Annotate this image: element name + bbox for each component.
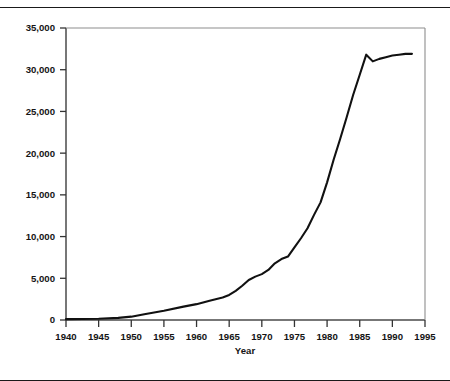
x-axis-tick-label: 1940	[55, 331, 76, 342]
y-axis-tick-label: 25,000	[26, 106, 55, 117]
x-axis-title: Year	[235, 345, 256, 356]
y-axis-tick-label: 30,000	[26, 64, 55, 75]
x-axis-tick-label: 1965	[219, 331, 241, 342]
x-axis-tick-label: 1970	[251, 331, 272, 342]
y-axis-tick-label: 10,000	[26, 231, 55, 242]
y-axis-tick-label: 20,000	[26, 148, 55, 159]
x-axis-tick-label: 1955	[153, 331, 175, 342]
x-axis-tick-label: 1980	[316, 331, 337, 342]
data-series-line	[66, 54, 412, 319]
x-axis-tick-label: 1950	[121, 331, 142, 342]
y-axis-tick-label: 15,000	[26, 189, 55, 200]
line-chart: 05,00010,00015,00020,00025,00030,00035,0…	[0, 0, 450, 381]
x-axis-tick-label: 1985	[349, 331, 371, 342]
y-axis-tick-label: 0	[50, 314, 55, 325]
x-axis-tick-label: 1975	[284, 331, 306, 342]
x-axis: 1940194519501955196019651970197519801985…	[55, 320, 436, 342]
x-axis-tick-label: 1995	[414, 331, 436, 342]
y-axis-tick-label: 5,000	[31, 273, 55, 284]
figure-container: 05,00010,00015,00020,00025,00030,00035,0…	[0, 0, 450, 381]
x-axis-tick-label: 1990	[382, 331, 403, 342]
y-axis: 05,00010,00015,00020,00025,00030,00035,0…	[26, 22, 66, 325]
x-axis-tick-label: 1960	[186, 331, 207, 342]
y-axis-tick-label: 35,000	[26, 22, 55, 33]
plot-frame	[66, 28, 425, 320]
x-axis-tick-label: 1945	[88, 331, 110, 342]
